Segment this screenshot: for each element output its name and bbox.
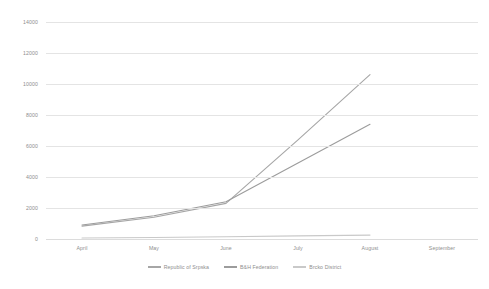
series-layer <box>46 22 478 239</box>
gridline <box>46 177 478 178</box>
gridline <box>46 84 478 85</box>
legend-line-icon <box>293 266 306 267</box>
y-axis-tick-label: 10000 <box>23 81 38 87</box>
x-axis: AprilMayJuneJulyAugustSeptember <box>46 245 478 257</box>
legend-label: B&H Federation <box>240 264 278 270</box>
legend-item[interactable]: Republic of Srpska <box>148 264 209 270</box>
gridline <box>46 146 478 147</box>
y-axis-tick-label: 14000 <box>23 19 38 25</box>
x-axis-tick-label: May <box>149 245 159 251</box>
gridline <box>46 239 478 240</box>
y-axis: 02000400060008000100001200014000 <box>0 22 42 239</box>
y-axis-tick-label: 6000 <box>26 143 38 149</box>
legend-item[interactable]: Brcko District <box>293 264 341 270</box>
x-axis-tick-label: June <box>220 245 232 251</box>
legend-line-icon <box>148 266 161 267</box>
plot-area <box>46 22 478 239</box>
gridline <box>46 53 478 54</box>
legend-line-icon <box>224 266 237 267</box>
x-axis-tick-label: July <box>293 245 303 251</box>
chart-legend: Republic of SrpskaB&H FederationBrcko Di… <box>0 264 489 270</box>
x-axis-tick-label: April <box>77 245 88 251</box>
series-line <box>82 75 370 226</box>
series-line <box>82 124 370 225</box>
x-axis-tick-label: August <box>362 245 379 251</box>
y-axis-tick-label: 2000 <box>26 205 38 211</box>
gridline <box>46 208 478 209</box>
y-axis-tick-label: 4000 <box>26 174 38 180</box>
y-axis-tick-label: 0 <box>35 236 38 242</box>
gridline <box>46 115 478 116</box>
gridline <box>46 22 478 23</box>
y-axis-tick-label: 12000 <box>23 50 38 56</box>
legend-label: Republic of Srpska <box>164 264 209 270</box>
line-chart: 02000400060008000100001200014000 AprilMa… <box>0 0 489 289</box>
legend-label: Brcko District <box>309 264 341 270</box>
y-axis-tick-label: 8000 <box>26 112 38 118</box>
x-axis-tick-label: September <box>429 245 455 251</box>
legend-item[interactable]: B&H Federation <box>224 264 278 270</box>
series-line <box>82 235 370 238</box>
